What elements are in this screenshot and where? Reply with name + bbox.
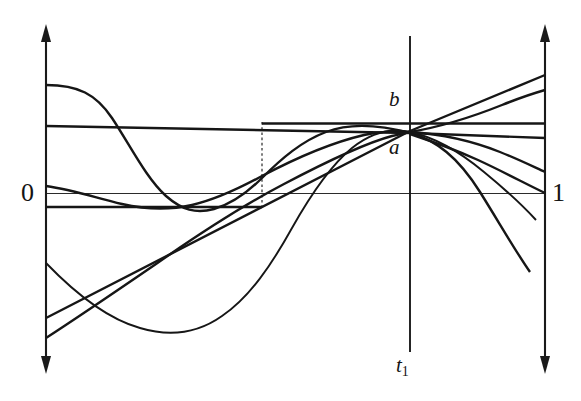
curve-family-plot	[0, 0, 581, 401]
label-level-b: b	[389, 89, 400, 110]
figure-canvas: 0 1 b a t1	[0, 0, 581, 401]
label-zero: 0	[21, 180, 34, 206]
left-axis-down-arrowhead	[41, 356, 51, 374]
label-level-a: a	[389, 137, 400, 158]
right-axis-down-arrowhead	[540, 356, 550, 374]
label-t1-subscript: 1	[402, 364, 409, 379]
left-axis-up-arrowhead	[41, 24, 51, 42]
label-one: 1	[552, 180, 565, 206]
line-rising-straight	[46, 75, 545, 318]
label-t1: t1	[396, 355, 409, 379]
right-axis-up-arrowhead	[540, 24, 550, 42]
curve-descending-sigmoid	[46, 85, 530, 272]
curve-low-flat-rising	[46, 131, 545, 208]
